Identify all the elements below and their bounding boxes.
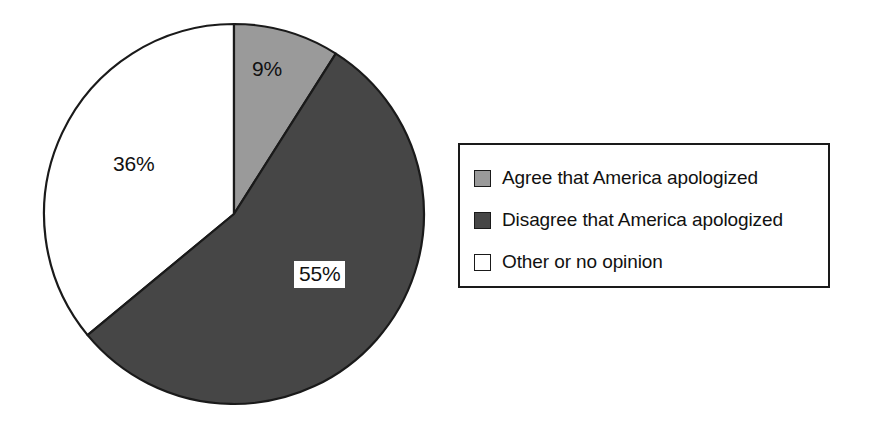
- legend-item-other[interactable]: Other or no opinion: [474, 241, 822, 283]
- legend-item-agree[interactable]: Agree that America apologized: [474, 157, 822, 199]
- pie-label-agree-percent: 9%: [252, 57, 282, 81]
- legend-item-disagree[interactable]: Disagree that America apologized: [474, 199, 822, 241]
- legend-label-agree: Agree that America apologized: [502, 167, 758, 189]
- pie-label-other-percent: 36%: [113, 152, 154, 176]
- legend-swatch-disagree-icon: [474, 212, 491, 229]
- pie-label-disagree-percent: 55%: [294, 261, 345, 288]
- legend-swatch-other-icon: [474, 254, 491, 271]
- legend-label-other: Other or no opinion: [502, 251, 663, 273]
- legend-swatch-agree-icon: [474, 170, 491, 187]
- chart-legend: Agree that America apologized Disagree t…: [458, 143, 830, 288]
- legend-item-list: Agree that America apologized Disagree t…: [474, 157, 822, 283]
- pie-chart-figure: 9% 36% 55% Agree that America apologized…: [0, 0, 872, 433]
- legend-label-disagree: Disagree that America apologized: [502, 209, 783, 231]
